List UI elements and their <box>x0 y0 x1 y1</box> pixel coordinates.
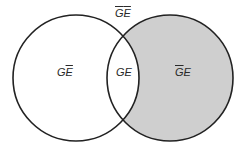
label-e: E <box>124 7 131 19</box>
label-intersection-region: GE <box>116 67 132 78</box>
label-left-only-region: GE <box>57 67 73 78</box>
label-e: E <box>66 66 73 78</box>
label-outside-region: GE <box>115 8 131 19</box>
label-g: G <box>115 7 124 19</box>
label-g: G <box>57 66 66 78</box>
label-e: E <box>184 66 191 78</box>
label-right-only-region: GE <box>175 67 191 78</box>
label-e: E <box>125 66 132 78</box>
label-g: G <box>116 66 125 78</box>
label-g: G <box>175 66 184 78</box>
